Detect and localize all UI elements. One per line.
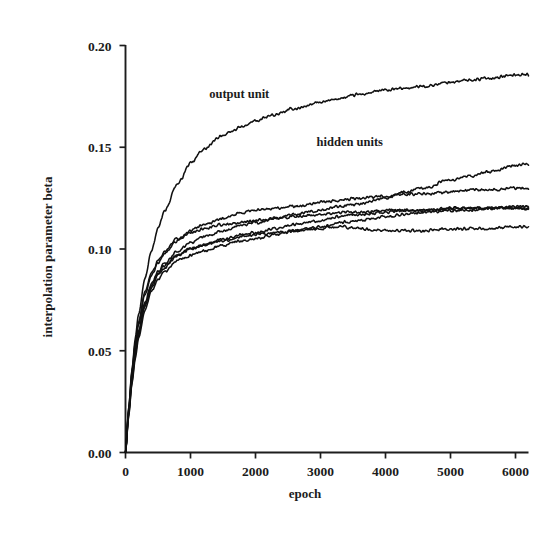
- x-tick-label: 5000: [437, 464, 464, 479]
- chart-figure: 0.000.050.100.150.20 0100020003000400050…: [0, 0, 557, 538]
- y-tick-label: 0.00: [88, 446, 112, 461]
- y-tick-label: 0.05: [88, 344, 112, 359]
- y-tick-label: 0.20: [88, 39, 112, 54]
- x-tick-label: 3000: [307, 464, 334, 479]
- x-tick-label: 0: [122, 464, 129, 479]
- y-axis-title: interpolation parameter beta: [40, 176, 55, 337]
- annotation-label-2: hidden units: [317, 135, 383, 149]
- y-tick-label: 0.15: [88, 140, 112, 155]
- x-tick-label: 1000: [177, 464, 204, 479]
- y-tick-label: 0.10: [88, 242, 112, 257]
- x-axis-title: epoch: [289, 486, 322, 501]
- annotation-label-1: output unit: [209, 87, 270, 101]
- x-tick-label: 6000: [502, 464, 529, 479]
- x-tick-label: 4000: [372, 464, 399, 479]
- line-chart: 0.000.050.100.150.20 0100020003000400050…: [0, 0, 557, 538]
- x-tick-label: 2000: [242, 464, 269, 479]
